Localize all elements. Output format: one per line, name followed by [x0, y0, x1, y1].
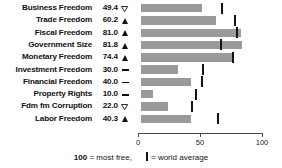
trend-up-icon: [118, 54, 132, 61]
world-average-marker: [221, 3, 223, 14]
world-average-marker: [236, 27, 238, 38]
freedom-index-bar-chart: Business Freedom49.4Trade Freedom60.2Fis…: [0, 0, 282, 168]
row-value: 81.0: [92, 29, 118, 37]
row-label: Financial Freedom: [0, 78, 92, 86]
chart-row: Fiscal Freedom81.0: [0, 27, 282, 39]
row-plot: [132, 88, 282, 100]
row-value: 49.4: [92, 4, 118, 12]
value-bar: [141, 16, 216, 24]
x-axis-label-100: 100: [256, 138, 269, 147]
chart-row: Monetary Freedom74.4: [0, 51, 282, 63]
row-value: 30.0: [92, 66, 118, 74]
row-plot: [132, 2, 282, 14]
chart-row: Business Freedom49.4: [0, 2, 282, 14]
chart-row: Fdm fm Corruption22.0: [0, 100, 282, 112]
row-label: Monetary Freedom: [0, 53, 92, 61]
row-value: 60.2: [92, 16, 118, 24]
trend-flat-icon: [118, 91, 132, 98]
trend-flat-icon: [118, 78, 132, 85]
row-plot: [132, 76, 282, 88]
row-label: Investment Freedom: [0, 66, 92, 74]
value-bar: [141, 78, 191, 86]
chart-rows: Business Freedom49.4Trade Freedom60.2Fis…: [0, 2, 282, 125]
world-average-marker: [195, 89, 197, 100]
chart-legend: 100 = most free, = world average: [0, 152, 282, 162]
row-value: 40.3: [92, 115, 118, 123]
trend-up-icon: [118, 41, 132, 48]
row-label: Fdm fm Corruption: [0, 102, 92, 110]
trend-up-icon: [118, 17, 132, 24]
row-label: Labor Freedom: [0, 115, 92, 123]
row-plot: [132, 113, 282, 125]
row-plot: [132, 14, 282, 26]
x-axis-label-0: 0: [136, 138, 140, 147]
row-plot: [132, 100, 282, 112]
value-bar: [141, 115, 191, 123]
trend-up-icon: [118, 29, 132, 36]
world-average-marker: [191, 101, 193, 112]
row-label: Government Size: [0, 41, 92, 49]
value-bar: [141, 53, 233, 61]
row-label: Fiscal Freedom: [0, 29, 92, 37]
row-label: Trade Freedom: [0, 16, 92, 24]
x-axis-tick-50: [200, 133, 201, 137]
chart-row: Investment Freedom30.0: [0, 63, 282, 75]
row-plot: [132, 27, 282, 39]
world-average-marker: [234, 15, 236, 26]
x-axis-tick-100: [262, 133, 263, 137]
value-bar: [141, 90, 153, 98]
chart-row: Property Rights10.0: [0, 88, 282, 100]
row-value: 10.0: [92, 90, 118, 98]
x-axis-label-50: 50: [196, 138, 204, 147]
world-average-marker: [201, 76, 203, 87]
row-value: 81.8: [92, 41, 118, 49]
legend-world-average: = world average: [146, 152, 208, 162]
row-value: 22.0: [92, 102, 118, 110]
value-bar: [141, 4, 202, 12]
row-value: 40.0: [92, 78, 118, 86]
trend-down-icon: [118, 5, 132, 12]
legend-world-average-text: = world average: [151, 153, 208, 162]
row-value: 74.4: [92, 53, 118, 61]
value-bar: [141, 102, 168, 110]
x-axis-tick-0: [138, 133, 139, 137]
row-label: Business Freedom: [0, 4, 92, 12]
legend-most-free-value: 100: [74, 153, 87, 162]
world-average-marker: [217, 113, 219, 124]
chart-row: Financial Freedom40.0: [0, 76, 282, 88]
world-average-marker: [220, 39, 222, 50]
trend-down-icon: [118, 103, 132, 110]
world-average-marker: [232, 52, 234, 63]
chart-row: Labor Freedom40.3: [0, 113, 282, 125]
value-bar: [141, 65, 178, 73]
chart-row: Trade Freedom60.2: [0, 14, 282, 26]
legend-most-free: 100 = most free,: [74, 153, 132, 162]
row-plot: [132, 63, 282, 75]
world-average-tick-icon: [146, 152, 148, 161]
value-bar: [141, 41, 242, 49]
trend-up-icon: [118, 115, 132, 122]
row-plot: [132, 51, 282, 63]
chart-row: Government Size81.8: [0, 39, 282, 51]
world-average-marker: [202, 64, 204, 75]
row-plot: [132, 39, 282, 51]
value-bar: [141, 29, 241, 37]
legend-most-free-text: = most free,: [89, 153, 131, 162]
trend-flat-icon: [118, 66, 132, 73]
row-label: Property Rights: [0, 90, 92, 98]
